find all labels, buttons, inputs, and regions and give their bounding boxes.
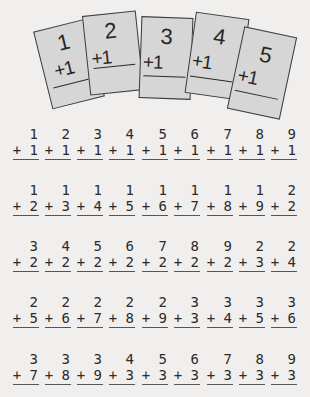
top-addend: 3	[94, 351, 102, 367]
answer-line	[109, 271, 135, 272]
problem: 3+ 7	[13, 351, 39, 385]
answer-line	[142, 327, 168, 328]
problem: 6+ 2	[109, 238, 135, 272]
answer-line	[174, 271, 200, 272]
bottom-addend: + 2	[174, 254, 199, 270]
answer-line	[77, 159, 103, 160]
answer-line	[239, 215, 265, 216]
top-addend: 3	[191, 294, 199, 310]
answer-line	[207, 384, 233, 385]
flashcard-addend: +1	[90, 47, 112, 68]
flashcard-addend: +1	[52, 57, 76, 80]
answer-line	[13, 384, 39, 385]
problem: 3+ 2	[13, 238, 39, 272]
bottom-addend: + 2	[207, 254, 232, 270]
answer-line	[45, 159, 71, 160]
top-addend: 4	[62, 238, 70, 254]
top-addend: 2	[94, 294, 102, 310]
top-addend: 7	[159, 238, 167, 254]
problem: 4+ 2	[45, 238, 71, 272]
top-addend: 2	[126, 294, 134, 310]
bottom-addend: + 3	[142, 367, 167, 383]
answer-line	[174, 215, 200, 216]
answer-line	[271, 271, 297, 272]
bottom-addend: + 9	[77, 367, 102, 383]
problem: 1+ 3	[45, 182, 71, 216]
bottom-addend: + 3	[271, 367, 296, 383]
problem: 1+ 8	[207, 182, 233, 216]
bottom-addend: + 2	[13, 198, 38, 214]
problem: 7+ 1	[207, 126, 233, 160]
answer-line	[77, 215, 103, 216]
problem: 9+ 3	[271, 351, 297, 385]
answer-line	[13, 215, 39, 216]
flashcard-top-number: 2	[84, 17, 138, 44]
problem: 3+ 3	[174, 294, 200, 328]
top-addend: 5	[94, 238, 102, 254]
problem: 9+ 2	[207, 238, 233, 272]
bottom-addend: + 3	[207, 367, 232, 383]
top-addend: 1	[126, 182, 134, 198]
answer-line	[207, 215, 233, 216]
answer-line	[142, 215, 168, 216]
bottom-addend: + 4	[77, 198, 102, 214]
problem-row-3: 3+ 2 4+ 2 5+ 2 6+ 2 7+ 2 8+ 2 9+ 2 2+ 3 …	[0, 238, 310, 278]
answer-line	[207, 271, 233, 272]
top-addend: 2	[159, 294, 167, 310]
top-addend: 1	[159, 182, 167, 198]
answer-line	[207, 327, 233, 328]
bottom-addend: + 7	[13, 367, 38, 383]
answer-line	[271, 384, 297, 385]
answer-line	[142, 159, 168, 160]
top-addend: 7	[224, 126, 232, 142]
problem: 1+ 5	[109, 182, 135, 216]
bottom-addend: + 2	[77, 254, 102, 270]
problem: 4+ 3	[109, 351, 135, 385]
answer-line	[239, 271, 265, 272]
problem: 3+ 8	[45, 351, 71, 385]
top-addend: 8	[191, 238, 199, 254]
problem: 8+ 1	[239, 126, 265, 160]
problem: 2+ 2	[271, 182, 297, 216]
bottom-addend: + 5	[239, 310, 264, 326]
top-addend: 3	[256, 294, 264, 310]
top-addend: 1	[30, 126, 38, 142]
answer-line	[271, 159, 297, 160]
problem: 4+ 1	[109, 126, 135, 160]
bottom-addend: + 2	[142, 254, 167, 270]
top-addend: 4	[126, 126, 134, 142]
answer-line	[13, 271, 39, 272]
answer-line	[13, 327, 39, 328]
bottom-addend: + 1	[109, 142, 134, 158]
flashcard-fan: 1 +1 2 +1 3 +1 4 +1 5 +1	[0, 0, 310, 125]
top-addend: 5	[159, 351, 167, 367]
problem: 7+ 3	[207, 351, 233, 385]
answer-line	[239, 384, 265, 385]
problem: 1+ 7	[174, 182, 200, 216]
answer-line	[109, 384, 135, 385]
problem: 3+ 5	[239, 294, 265, 328]
bottom-addend: + 6	[142, 198, 167, 214]
answer-line	[109, 159, 135, 160]
bottom-addend: + 9	[239, 198, 264, 214]
bottom-addend: + 7	[174, 198, 199, 214]
bottom-addend: + 7	[77, 310, 102, 326]
answer-line	[174, 384, 200, 385]
answer-line	[271, 215, 297, 216]
bottom-addend: + 8	[207, 198, 232, 214]
flashcard-addend: +1	[236, 65, 259, 88]
bottom-addend: + 5	[109, 198, 134, 214]
top-addend: 5	[159, 126, 167, 142]
bottom-addend: + 5	[13, 310, 38, 326]
bottom-addend: + 3	[174, 310, 199, 326]
bottom-addend: + 3	[174, 367, 199, 383]
answer-line	[190, 75, 235, 82]
top-addend: 4	[126, 351, 134, 367]
bottom-addend: + 3	[45, 198, 70, 214]
problem: 7+ 2	[142, 238, 168, 272]
top-addend: 1	[62, 182, 70, 198]
answer-line	[13, 159, 39, 160]
answer-line	[207, 159, 233, 160]
bottom-addend: + 1	[13, 142, 38, 158]
problem: 3+ 6	[271, 294, 297, 328]
